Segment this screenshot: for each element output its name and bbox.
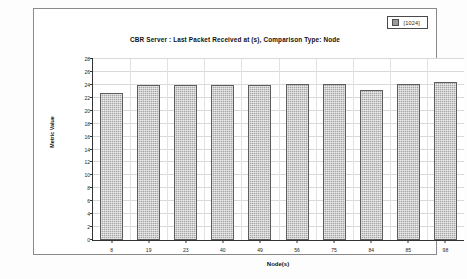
y-tick-label: 6 — [87, 198, 90, 204]
x-tick-mark — [259, 240, 260, 243]
y-tick-label: 22 — [84, 95, 90, 101]
plot-area: 0246810121416182022242628 81923404956758… — [92, 59, 464, 241]
y-axis-title: Metric Value — [46, 9, 58, 254]
bar-slot: 40 — [204, 59, 241, 240]
bar-slot: 8 — [93, 59, 130, 240]
x-tick-label: 23 — [183, 247, 189, 253]
bar[interactable] — [137, 85, 160, 240]
x-tick-mark — [371, 240, 372, 243]
x-tick-label: 49 — [257, 247, 263, 253]
bar-slot: 98 — [427, 59, 464, 240]
x-tick-mark — [185, 240, 186, 243]
y-tick-label: 0 — [87, 237, 90, 243]
y-tick-label: 10 — [84, 172, 90, 178]
y-tick-label: 18 — [84, 121, 90, 127]
x-tick-mark — [111, 240, 112, 243]
x-axis-title: Node(s) — [92, 261, 464, 267]
x-tick-mark — [297, 240, 298, 243]
bar-slot: 85 — [390, 59, 427, 240]
chart-title: CBR Server : Last Packet Received at (s)… — [34, 36, 436, 43]
bar[interactable] — [211, 85, 234, 240]
bar[interactable] — [286, 84, 309, 240]
bar-slot: 49 — [241, 59, 278, 240]
y-tick-label: 16 — [84, 134, 90, 140]
x-tick-mark — [334, 240, 335, 243]
x-tick-label: 19 — [146, 247, 152, 253]
bar[interactable] — [397, 84, 420, 240]
legend-label: [1024] — [404, 20, 421, 26]
bar-slot: 56 — [278, 59, 315, 240]
x-tick-mark — [408, 240, 409, 243]
bar-series: 8192340495675848598 — [93, 59, 464, 240]
x-tick-mark — [222, 240, 223, 243]
bar[interactable] — [360, 90, 383, 240]
bar-slot: 75 — [316, 59, 353, 240]
bar[interactable] — [174, 85, 197, 240]
bar[interactable] — [323, 84, 346, 240]
plot-canvas: 0246810121416182022242628 81923404956758… — [92, 59, 464, 241]
chart-panel: [1024] CBR Server : Last Packet Received… — [33, 8, 437, 255]
chart-legend[interactable]: [1024] — [387, 16, 429, 29]
y-tick-label: 20 — [84, 108, 90, 114]
bar-slot: 19 — [130, 59, 167, 240]
y-tick-label: 28 — [84, 56, 90, 62]
chart-screenshot: [1024] CBR Server : Last Packet Received… — [0, 0, 467, 279]
x-tick-label: 56 — [294, 247, 300, 253]
bar-slot: 84 — [353, 59, 390, 240]
x-tick-mark — [148, 240, 149, 243]
legend-swatch-icon — [392, 19, 399, 26]
y-tick-label: 2 — [87, 224, 90, 230]
bar[interactable] — [248, 85, 271, 240]
x-tick-label: 85 — [406, 247, 412, 253]
x-tick-label: 40 — [220, 247, 226, 253]
y-tick-label: 8 — [87, 185, 90, 191]
y-tick-label: 4 — [87, 211, 90, 217]
bar[interactable] — [434, 82, 457, 240]
bar[interactable] — [100, 93, 123, 240]
y-tick-label: 26 — [84, 69, 90, 75]
x-tick-label: 84 — [368, 247, 374, 253]
y-axis-title-text: Metric Value — [49, 116, 55, 147]
x-tick-label: 8 — [110, 247, 113, 253]
x-tick-mark — [445, 240, 446, 243]
y-tick-label: 12 — [84, 159, 90, 165]
y-tick-label: 14 — [84, 147, 90, 153]
y-tick-label: 24 — [84, 82, 90, 88]
bar-slot: 23 — [167, 59, 204, 240]
x-tick-label: 98 — [443, 247, 449, 253]
x-tick-label: 75 — [331, 247, 337, 253]
